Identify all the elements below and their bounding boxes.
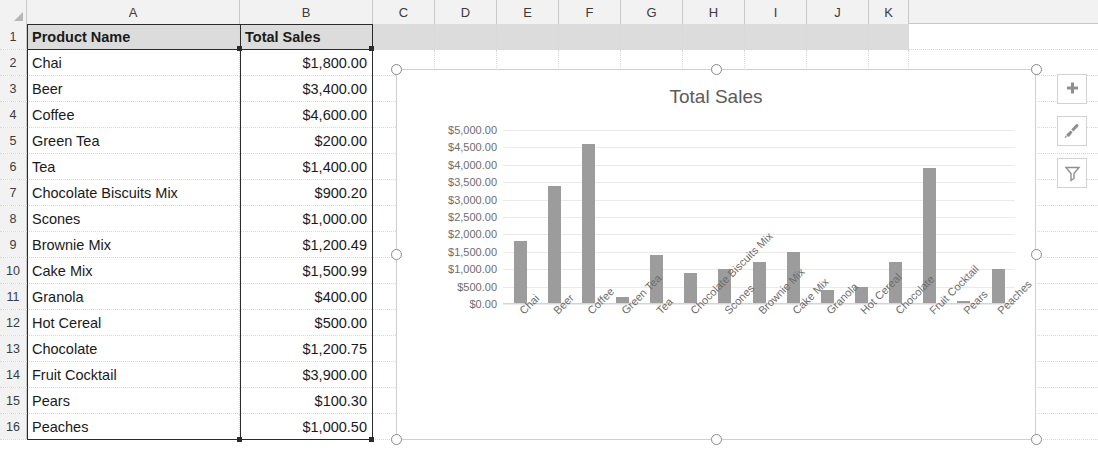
chart-styles-button[interactable] xyxy=(1057,116,1087,146)
cell-b8[interactable]: $1,000.00 xyxy=(240,206,373,232)
sales-chart-object[interactable]: Total Sales $5,000.00$4,500.00$4,000.00$… xyxy=(396,69,1036,440)
empty-cell[interactable] xyxy=(683,24,745,50)
cell-a13[interactable]: Chocolate xyxy=(27,336,240,362)
chart-resize-handle-middle-left[interactable] xyxy=(391,249,402,260)
column-header-e[interactable]: E xyxy=(497,0,559,24)
chart-resize-handle-bottom-center[interactable] xyxy=(711,434,722,445)
cell-a8[interactable]: Scones xyxy=(27,206,240,232)
cell-b1[interactable]: Total Sales xyxy=(240,24,373,50)
cell-b5[interactable]: $200.00 xyxy=(240,128,373,154)
cell-a5[interactable]: Green Tea xyxy=(27,128,240,154)
cell-b6[interactable]: $1,400.00 xyxy=(240,154,373,180)
selection-nub xyxy=(237,46,242,51)
empty-cell[interactable] xyxy=(497,24,559,50)
cell-a1[interactable]: Product Name xyxy=(27,24,240,50)
chart-bar[interactable] xyxy=(548,186,561,304)
cell-b2[interactable]: $1,800.00 xyxy=(240,50,373,76)
select-all-triangle-icon xyxy=(14,12,23,21)
chart-bar[interactable] xyxy=(514,241,527,304)
column-header-a[interactable]: A xyxy=(27,0,240,24)
empty-cell[interactable] xyxy=(559,24,621,50)
cell-a11[interactable]: Granola xyxy=(27,284,240,310)
row-header-4[interactable]: 4 xyxy=(0,102,27,127)
cell-b4[interactable]: $4,600.00 xyxy=(240,102,373,128)
chart-bar-slot xyxy=(844,130,878,304)
table-row[interactable]: 1Product NameTotal Sales xyxy=(0,24,1098,50)
cell-b13[interactable]: $1,200.75 xyxy=(240,336,373,362)
row-header-10[interactable]: 10 xyxy=(0,258,27,283)
cell-a14[interactable]: Fruit Cocktail xyxy=(27,362,240,388)
empty-cell[interactable] xyxy=(869,24,909,50)
empty-cell[interactable] xyxy=(745,24,807,50)
cell-b10[interactable]: $1,500.99 xyxy=(240,258,373,284)
chart-bar-slot xyxy=(605,130,639,304)
cell-b11[interactable]: $400.00 xyxy=(240,284,373,310)
chart-bar[interactable] xyxy=(753,262,766,304)
row-header-13[interactable]: 13 xyxy=(0,336,27,361)
column-header-g[interactable]: G xyxy=(621,0,683,24)
selection-nub xyxy=(369,437,374,442)
column-header-j[interactable]: J xyxy=(807,0,869,24)
cell-a10[interactable]: Cake Mix xyxy=(27,258,240,284)
empty-cell[interactable] xyxy=(807,24,869,50)
cell-a4[interactable]: Coffee xyxy=(27,102,240,128)
chart-resize-handle-top-center[interactable] xyxy=(711,64,722,75)
empty-cell[interactable] xyxy=(435,24,497,50)
cell-a16[interactable]: Peaches xyxy=(27,414,240,440)
chart-y-axis-tick-label: $5,000.00 xyxy=(448,124,497,136)
row-header-11[interactable]: 11 xyxy=(0,284,27,309)
row-header-16[interactable]: 16 xyxy=(0,414,27,439)
column-header-k[interactable]: K xyxy=(869,0,909,24)
chart-resize-handle-top-left[interactable] xyxy=(391,64,402,75)
row-header-12[interactable]: 12 xyxy=(0,310,27,335)
chart-bar-slot xyxy=(674,130,708,304)
column-header-f[interactable]: F xyxy=(559,0,621,24)
row-header-2[interactable]: 2 xyxy=(0,50,27,75)
chart-resize-handle-middle-right[interactable] xyxy=(1031,249,1042,260)
cell-a7[interactable]: Chocolate Biscuits Mix xyxy=(27,180,240,206)
column-header-b[interactable]: B xyxy=(240,0,373,24)
chart-elements-button[interactable] xyxy=(1057,74,1087,104)
cell-b3[interactable]: $3,400.00 xyxy=(240,76,373,102)
cell-a6[interactable]: Tea xyxy=(27,154,240,180)
cell-a9[interactable]: Brownie Mix xyxy=(27,232,240,258)
column-header-i[interactable]: I xyxy=(745,0,807,24)
cell-a3[interactable]: Beer xyxy=(27,76,240,102)
selection-nub xyxy=(237,437,242,442)
row-header-5[interactable]: 5 xyxy=(0,128,27,153)
cell-b16[interactable]: $1,000.50 xyxy=(240,414,373,440)
cell-b15[interactable]: $100.30 xyxy=(240,388,373,414)
plus-icon xyxy=(1064,81,1081,98)
cell-a12[interactable]: Hot Cereal xyxy=(27,310,240,336)
row-header-15[interactable]: 15 xyxy=(0,388,27,413)
row-header-6[interactable]: 6 xyxy=(0,154,27,179)
cell-b7[interactable]: $900.20 xyxy=(240,180,373,206)
row-header-14[interactable]: 14 xyxy=(0,362,27,387)
column-header-d[interactable]: D xyxy=(435,0,497,24)
column-header-c[interactable]: C xyxy=(373,0,435,24)
row-header-7[interactable]: 7 xyxy=(0,180,27,205)
chart-title[interactable]: Total Sales xyxy=(397,86,1035,108)
row-header-9[interactable]: 9 xyxy=(0,232,27,257)
chart-resize-handle-bottom-left[interactable] xyxy=(391,434,402,445)
row-header-8[interactable]: 8 xyxy=(0,206,27,231)
row-header-3[interactable]: 3 xyxy=(0,76,27,101)
empty-cell[interactable] xyxy=(373,24,435,50)
chart-bar[interactable] xyxy=(582,144,595,304)
chart-y-axis-tick-label: $1,500.00 xyxy=(448,246,497,258)
column-header-h[interactable]: H xyxy=(683,0,745,24)
cell-b14[interactable]: $3,900.00 xyxy=(240,362,373,388)
chart-y-axis-tick-label: $3,500.00 xyxy=(448,176,497,188)
cell-b12[interactable]: $500.00 xyxy=(240,310,373,336)
select-all-corner[interactable] xyxy=(0,0,27,24)
chart-resize-handle-bottom-right[interactable] xyxy=(1031,434,1042,445)
chart-resize-handle-top-right[interactable] xyxy=(1031,64,1042,75)
empty-cell[interactable] xyxy=(621,24,683,50)
cell-a2[interactable]: Chai xyxy=(27,50,240,76)
cell-a15[interactable]: Pears xyxy=(27,388,240,414)
cell-b9[interactable]: $1,200.49 xyxy=(240,232,373,258)
selection-header-divider xyxy=(27,49,373,50)
row-header-1[interactable]: 1 xyxy=(0,24,27,49)
chart-plot-area[interactable] xyxy=(503,130,1015,304)
chart-filters-button[interactable] xyxy=(1057,158,1087,188)
